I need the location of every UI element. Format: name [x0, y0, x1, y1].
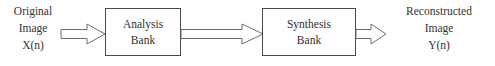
synthesis-bank-block: Synthesis Bank — [262, 8, 356, 56]
input-label-line-1: Original — [2, 3, 64, 20]
input-label-line-2: Image — [2, 20, 64, 37]
output-label-line-2: Image — [385, 20, 493, 37]
input-label-line-3: X(n) — [2, 37, 64, 54]
output-label-line-3: Y(n) — [385, 37, 493, 54]
filter-bank-diagram: Original Image X(n) Analysis Bank Synthe… — [0, 0, 495, 66]
synthesis-bank-label-line-2: Bank — [297, 32, 321, 48]
analysis-bank-block: Analysis Bank — [105, 8, 181, 56]
analysis-bank-label-line-2: Bank — [131, 32, 155, 48]
synthesis-bank-label-line-1: Synthesis — [287, 16, 331, 32]
arrow-right-icon-synthesis-to-output — [355, 22, 387, 46]
input-signal-label: Original Image X(n) — [2, 3, 64, 54]
arrow-right-icon-analysis-to-synthesis — [180, 22, 264, 46]
output-signal-label: Reconstructed Image Y(n) — [385, 3, 493, 54]
arrow-right-icon-input-to-analysis — [60, 22, 106, 46]
output-label-line-1: Reconstructed — [385, 3, 493, 20]
analysis-bank-label-line-1: Analysis — [123, 16, 163, 32]
